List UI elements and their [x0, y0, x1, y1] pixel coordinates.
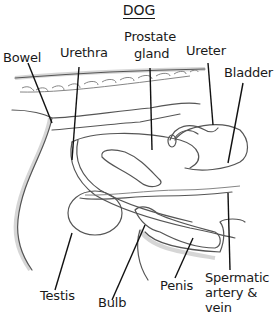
- label-prostate-line2: gland: [134, 47, 169, 61]
- label-spermatic-line3: vein: [205, 301, 232, 315]
- bladder-leader: [228, 83, 243, 163]
- penis-leader: [175, 238, 193, 278]
- label-urethra: Urethra: [60, 46, 108, 60]
- spermatic-leader: [228, 193, 230, 270]
- label-spermatic-line1: Spermatic: [205, 271, 269, 285]
- ureter-leader: [208, 63, 213, 125]
- label-penis: Penis: [160, 279, 193, 293]
- prostate-leader: [150, 68, 152, 150]
- label-testis: Testis: [40, 289, 75, 303]
- label-bladder: Bladder: [224, 66, 273, 80]
- urethra-leader: [72, 67, 79, 160]
- testis-leader: [55, 233, 72, 290]
- label-bowel: Bowel: [3, 51, 41, 65]
- label-prostate-line1: Prostate: [124, 30, 176, 44]
- label-spermatic-line2: artery &: [205, 286, 257, 300]
- label-bulb: Bulb: [98, 296, 126, 310]
- label-ureter: Ureter: [186, 44, 226, 58]
